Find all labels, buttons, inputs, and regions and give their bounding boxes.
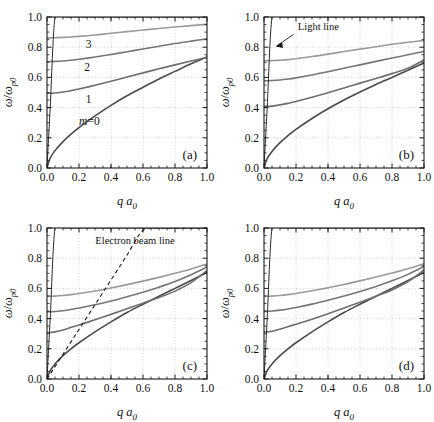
y-tick-label: 0.2 xyxy=(28,132,43,144)
x-tick-label: 0.4 xyxy=(104,171,119,183)
x-tick-label: 0.6 xyxy=(136,382,151,394)
x-tick-label: 0.8 xyxy=(168,382,183,394)
y-tick-label: 1.0 xyxy=(28,11,43,23)
y-axis-title: ω/ωp0 xyxy=(218,288,235,318)
panel-tag: (d) xyxy=(399,358,414,373)
y-tick-label: 0.0 xyxy=(28,162,43,174)
y-tick-label: 0.0 xyxy=(245,373,260,385)
x-tick-label: 1.0 xyxy=(417,171,432,183)
x-tick-label: 1.0 xyxy=(200,171,215,183)
y-tick-label: 1.0 xyxy=(245,11,260,23)
x-axis-title-subscript: 0 xyxy=(350,201,355,211)
y-tick-label: 0.4 xyxy=(245,313,260,325)
x-tick-label: 0.6 xyxy=(136,171,151,183)
figure-grid: 0.00.20.40.60.81.00.00.20.40.60.81.0q a0… xyxy=(0,0,434,422)
panel-tag: (c) xyxy=(183,358,197,373)
x-axis-title: q a0 xyxy=(117,194,138,211)
x-tick-label: 0.8 xyxy=(168,171,183,183)
y-tick-label: 0.2 xyxy=(245,132,260,144)
x-tick-label: 1.0 xyxy=(200,382,215,394)
x-tick-label: 0.6 xyxy=(353,382,368,394)
x-axis-title: q a0 xyxy=(117,405,138,422)
x-tick-label: 0.0 xyxy=(40,382,55,394)
y-tick-label: 0.0 xyxy=(28,373,43,385)
panel-tag: (b) xyxy=(399,147,414,162)
y-tick-label: 0.8 xyxy=(28,41,43,53)
plot-background xyxy=(264,17,424,168)
svg-text:ω/ωp0: ω/ωp0 xyxy=(218,288,235,318)
y-tick-label: 0.0 xyxy=(245,162,260,174)
svg-text:ω/ωp0: ω/ωp0 xyxy=(1,288,18,318)
y-tick-label: 0.4 xyxy=(28,102,43,114)
y-tick-label: 0.8 xyxy=(28,252,43,264)
curve-label: m=0 xyxy=(79,115,100,127)
panel-tag: (a) xyxy=(183,147,197,162)
plot-b: 0.00.20.40.60.81.00.00.20.40.60.81.0q a0… xyxy=(217,0,434,211)
x-tick-label: 0.2 xyxy=(289,171,304,183)
curve-label: 2 xyxy=(84,61,90,73)
plot-c: 0.00.20.40.60.81.00.00.20.40.60.81.0q a0… xyxy=(0,211,217,422)
x-tick-label: 1.0 xyxy=(417,382,432,394)
x-tick-label: 0.2 xyxy=(289,382,304,394)
x-axis-title: q a0 xyxy=(334,194,355,211)
y-tick-label: 0.6 xyxy=(28,71,43,83)
y-axis-title: ω/ωp0 xyxy=(218,77,235,107)
y-tick-label: 0.6 xyxy=(245,71,260,83)
y-tick-label: 0.6 xyxy=(245,282,260,294)
x-tick-label: 0.6 xyxy=(353,171,368,183)
x-tick-label: 0.0 xyxy=(257,382,272,394)
panel-a: 0.00.20.40.60.81.00.00.20.40.60.81.0q a0… xyxy=(0,0,217,211)
y-tick-label: 0.2 xyxy=(28,343,43,355)
y-tick-label: 1.0 xyxy=(28,222,43,234)
electron-beam-line-annotation: Electron beam line xyxy=(95,235,175,246)
x-axis-title-subscript: 0 xyxy=(350,412,355,422)
y-axis-title: ω/ωp0 xyxy=(1,77,18,107)
x-axis-title-subscript: 0 xyxy=(133,412,138,422)
svg-text:ω/ωp0: ω/ωp0 xyxy=(1,77,18,107)
y-tick-label: 0.8 xyxy=(245,252,260,264)
x-tick-label: 0.0 xyxy=(257,171,272,183)
y-tick-label: 0.6 xyxy=(28,282,43,294)
plot-background xyxy=(47,228,207,379)
plot-background xyxy=(264,228,424,379)
x-axis-title: q a0 xyxy=(334,405,355,422)
x-tick-label: 0.4 xyxy=(321,171,336,183)
panel-c: 0.00.20.40.60.81.00.00.20.40.60.81.0q a0… xyxy=(0,211,217,422)
x-tick-label: 0.4 xyxy=(104,382,119,394)
y-tick-label: 0.8 xyxy=(245,41,260,53)
x-tick-label: 0.4 xyxy=(321,382,336,394)
y-tick-label: 1.0 xyxy=(245,222,260,234)
y-tick-label: 0.4 xyxy=(245,102,260,114)
plot-a: 0.00.20.40.60.81.00.00.20.40.60.81.0q a0… xyxy=(0,0,217,211)
x-tick-label: 0.2 xyxy=(72,382,87,394)
panel-b: 0.00.20.40.60.81.00.00.20.40.60.81.0q a0… xyxy=(217,0,434,211)
svg-text:ω/ωp0: ω/ωp0 xyxy=(218,77,235,107)
curve-label: 3 xyxy=(86,38,92,50)
x-tick-label: 0.8 xyxy=(385,382,400,394)
plot-d: 0.00.20.40.60.81.00.00.20.40.60.81.0q a0… xyxy=(217,211,434,422)
plot-background xyxy=(47,17,207,168)
panel-d: 0.00.20.40.60.81.00.00.20.40.60.81.0q a0… xyxy=(217,211,434,422)
y-tick-label: 0.2 xyxy=(245,343,260,355)
y-axis-title: ω/ωp0 xyxy=(1,288,18,318)
x-axis-title-subscript: 0 xyxy=(133,201,138,211)
y-tick-label: 0.4 xyxy=(28,313,43,325)
light-line-annotation: Light line xyxy=(298,21,339,32)
x-tick-label: 0.8 xyxy=(385,171,400,183)
x-tick-label: 0.2 xyxy=(72,171,87,183)
x-tick-label: 0.0 xyxy=(40,171,55,183)
curve-label: 1 xyxy=(86,93,92,105)
